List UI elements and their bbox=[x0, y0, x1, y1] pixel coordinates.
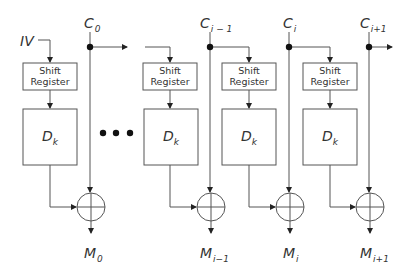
shift-register-label-0: ShiftRegister bbox=[23, 65, 77, 87]
message-label-3: Mi+1 bbox=[360, 243, 389, 264]
ellipsis-dot bbox=[113, 130, 119, 136]
shift-register-label-1: ShiftRegister bbox=[143, 65, 197, 87]
ellipsis-dot bbox=[100, 130, 106, 136]
decrypt-label-1: Dk bbox=[144, 128, 198, 147]
junction-dot-2 bbox=[286, 44, 292, 50]
cipher-label-3: Ci+1 bbox=[360, 13, 387, 34]
junction-dot-1 bbox=[207, 44, 213, 50]
junction-dot-0 bbox=[87, 44, 93, 50]
cipher-label-1: Ci − 1 bbox=[200, 13, 232, 34]
cipher-label-2: Ci bbox=[283, 13, 296, 34]
decrypt-label-2: Dk bbox=[222, 128, 276, 147]
iv-label: IV bbox=[20, 31, 34, 50]
message-label-0: M0 bbox=[84, 243, 103, 264]
decrypt-label-0: Dk bbox=[23, 128, 77, 147]
ellipsis-dot bbox=[127, 130, 133, 136]
message-label-1: Mi−1 bbox=[200, 243, 229, 264]
shift-register-label-3: ShiftRegister bbox=[303, 65, 357, 87]
junction-dot-3 bbox=[366, 44, 372, 50]
shift-register-label-2: ShiftRegister bbox=[222, 65, 276, 87]
cipher-label-0: C0 bbox=[84, 13, 101, 34]
message-label-2: Mi bbox=[283, 243, 299, 264]
decrypt-label-3: Dk bbox=[303, 128, 357, 147]
iv-arrow bbox=[38, 40, 50, 62]
